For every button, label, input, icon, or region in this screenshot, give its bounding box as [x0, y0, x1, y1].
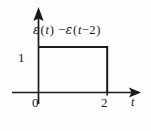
arg2-constant: 2: [89, 23, 96, 37]
expression-annotation: ε(t) −ε(t−2): [33, 24, 101, 37]
x-axis-label: t: [131, 96, 134, 109]
epsilon-symbol-1: ε: [33, 22, 40, 37]
figure-container: ε(t) −ε(t−2) 1 0 2 t: [0, 0, 151, 131]
arg2-close-paren: ): [96, 23, 101, 37]
x-tick-label-2: 2: [101, 96, 108, 109]
subtraction-operator: −: [58, 23, 65, 37]
x-tick-label-0: 0: [32, 96, 39, 109]
epsilon-symbol-2: ε: [66, 22, 73, 37]
plot-canvas: [0, 0, 151, 131]
y-tick-label-1: 1: [18, 51, 25, 64]
arg1-close-paren: ): [49, 23, 54, 37]
